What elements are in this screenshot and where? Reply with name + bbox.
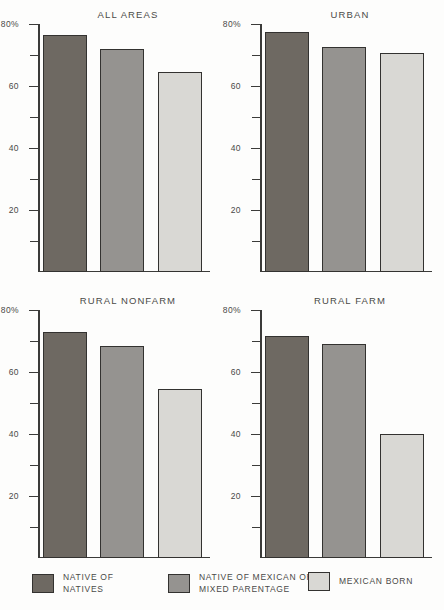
panel-grid: ALL AREAS 80%604020 URBAN 80%604020 RURA… xyxy=(0,0,444,556)
bar xyxy=(43,332,87,558)
legend-item-label: NATIVE OF NATIVES xyxy=(63,572,114,595)
y-axis-tick: 60 xyxy=(251,372,261,373)
legend-item-label: NATIVE OF MEXICAN OR MIXED PARENTAGE xyxy=(199,572,313,595)
legend-swatch-icon xyxy=(168,574,190,593)
y-axis-tick: 20 xyxy=(29,210,39,211)
y-axis-tick: 40 xyxy=(29,148,39,149)
y-axis-tick-label: 80% xyxy=(1,19,19,29)
y-axis-tick-label: 20 xyxy=(231,205,241,215)
bar xyxy=(322,344,366,558)
bar xyxy=(158,389,202,558)
bar xyxy=(100,346,144,558)
legend-swatch-icon xyxy=(32,574,54,593)
bar xyxy=(158,72,202,272)
plot-area: 80%604020 xyxy=(260,24,432,272)
y-axis-tick xyxy=(30,179,39,180)
y-axis-tick xyxy=(252,527,261,528)
plot-area: 80%604020 xyxy=(38,24,210,272)
y-axis-tick: 40 xyxy=(251,148,261,149)
panel-title: ALL AREAS xyxy=(40,9,216,20)
chart-legend: NATIVE OF NATIVES NATIVE OF MEXICAN OR M… xyxy=(0,572,444,610)
legend-swatch-icon xyxy=(308,572,330,591)
y-axis-tick xyxy=(252,241,261,242)
y-axis-tick-label: 40 xyxy=(231,429,241,439)
y-axis-tick-label: 20 xyxy=(9,205,19,215)
y-axis-tick-label: 60 xyxy=(231,81,241,91)
y-axis-tick: 60 xyxy=(29,372,39,373)
y-axis-tick xyxy=(30,241,39,242)
bar xyxy=(380,53,424,272)
bar xyxy=(322,47,366,272)
y-axis-tick: 60 xyxy=(251,86,261,87)
y-axis-tick: 20 xyxy=(251,210,261,211)
y-axis-tick xyxy=(252,341,261,342)
y-axis-tick-label: 20 xyxy=(231,491,241,501)
y-axis-tick: 80% xyxy=(29,24,39,25)
y-axis-tick xyxy=(252,465,261,466)
y-axis-tick: 40 xyxy=(251,434,261,435)
y-axis-tick-label: 80% xyxy=(223,305,241,315)
plot-area: 80%604020 xyxy=(38,310,210,558)
y-axis-tick-label: 80% xyxy=(223,19,241,29)
legend-item: NATIVE OF NATIVES xyxy=(32,572,114,595)
legend-item-label: MEXICAN BORN xyxy=(339,576,413,588)
y-axis-tick: 20 xyxy=(251,496,261,497)
y-axis-tick xyxy=(30,55,39,56)
panel-title: URBAN xyxy=(262,9,438,20)
bar-chart-figure: ALL AREAS 80%604020 URBAN 80%604020 RURA… xyxy=(0,0,444,610)
y-axis-tick: 80% xyxy=(251,24,261,25)
y-axis-tick-label: 60 xyxy=(9,81,19,91)
plot-area: 80%604020 xyxy=(260,310,432,558)
legend-item: MEXICAN BORN xyxy=(308,572,413,591)
y-axis-tick: 80% xyxy=(251,310,261,311)
y-axis-tick xyxy=(30,403,39,404)
panel-title: RURAL NONFARM xyxy=(40,295,216,306)
y-axis-tick-label: 60 xyxy=(9,367,19,377)
y-axis-tick-label: 60 xyxy=(231,367,241,377)
y-axis-tick xyxy=(30,527,39,528)
legend-item: NATIVE OF MEXICAN OR MIXED PARENTAGE xyxy=(168,572,313,595)
chart-panel-all-areas: ALL AREAS 80%604020 xyxy=(0,2,222,287)
panel-title: RURAL FARM xyxy=(262,295,438,306)
bar xyxy=(380,434,424,558)
chart-panel-urban: URBAN 80%604020 xyxy=(222,2,444,287)
y-axis-tick: 60 xyxy=(29,86,39,87)
y-axis-tick xyxy=(252,179,261,180)
y-axis-tick-label: 40 xyxy=(231,143,241,153)
y-axis-tick: 80% xyxy=(29,310,39,311)
y-axis-tick-label: 20 xyxy=(9,491,19,501)
bar xyxy=(265,32,309,272)
y-axis-tick-label: 40 xyxy=(9,143,19,153)
bar xyxy=(100,49,144,272)
bar xyxy=(43,35,87,272)
y-axis-tick: 20 xyxy=(29,496,39,497)
y-axis-tick xyxy=(252,55,261,56)
y-axis-tick xyxy=(252,403,261,404)
y-axis-tick xyxy=(30,117,39,118)
chart-panel-rural-nonfarm: RURAL NONFARM 80%604020 xyxy=(0,288,222,573)
bar xyxy=(265,336,309,558)
y-axis-tick xyxy=(30,465,39,466)
chart-panel-rural-farm: RURAL FARM 80%604020 xyxy=(222,288,444,573)
y-axis-tick: 40 xyxy=(29,434,39,435)
y-axis-tick xyxy=(252,117,261,118)
y-axis-tick-label: 40 xyxy=(9,429,19,439)
y-axis-tick-label: 80% xyxy=(1,305,19,315)
y-axis-tick xyxy=(30,341,39,342)
